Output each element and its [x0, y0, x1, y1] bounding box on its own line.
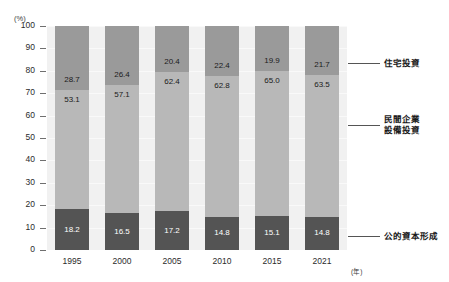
bar-value-label: 15.1	[264, 229, 280, 237]
bar-value-label: 17.2	[164, 227, 180, 235]
y-axis-tick-label: 30	[26, 177, 35, 187]
y-axis-tick-mark	[40, 26, 46, 27]
bar-segment[interactable]: 21.7	[305, 26, 339, 75]
bar-segment[interactable]: 18.2	[55, 209, 89, 250]
y-axis-tick-mark	[40, 138, 46, 139]
gridline	[47, 138, 347, 139]
bar-value-label: 53.1	[64, 96, 80, 104]
bar-value-label: 62.8	[214, 82, 230, 90]
bar-value-label: 26.4	[114, 71, 130, 79]
legend-item[interactable]: 民間企業設備投資	[348, 114, 420, 136]
plot-area	[47, 26, 347, 250]
bar-value-label: 14.8	[314, 229, 330, 237]
bar-segment[interactable]: 15.1	[255, 216, 289, 250]
gridline	[47, 160, 347, 161]
x-axis-tick-label: 2021	[292, 256, 352, 266]
y-axis-tick-mark	[40, 48, 46, 49]
bar-segment[interactable]: 14.8	[205, 217, 239, 250]
legend-leader-line	[348, 236, 380, 237]
bar-group[interactable]: 16.557.126.4	[105, 26, 139, 250]
legend-item[interactable]: 公的資本形成	[348, 231, 438, 242]
bar-segment[interactable]: 65.0	[255, 71, 289, 217]
legend-label: 民間企業設備投資	[384, 114, 420, 136]
gridline	[47, 116, 347, 117]
bar-value-label: 18.2	[64, 226, 80, 234]
y-axis-tick-mark	[40, 160, 46, 161]
x-axis-unit-label: (年)	[351, 266, 362, 276]
bar-group[interactable]: 14.862.822.4	[205, 26, 239, 250]
y-axis-tick-mark	[40, 250, 46, 251]
bar-group[interactable]: 17.262.420.4	[155, 26, 189, 250]
bar-value-label: 20.4	[164, 58, 180, 66]
bar-segment[interactable]: 17.2	[155, 211, 189, 250]
bar-segment[interactable]: 22.4	[205, 26, 239, 76]
legend-item[interactable]: 住宅投資	[348, 58, 420, 69]
gridline	[47, 71, 347, 72]
y-axis-tick-mark	[40, 183, 46, 184]
legend-leader-line	[348, 125, 380, 126]
bar-value-label: 65.0	[264, 77, 280, 85]
stacked-bar-chart: (%) (年) 0102030405060708090100 199520002…	[0, 0, 449, 282]
bar-value-label: 19.9	[264, 57, 280, 65]
y-axis-tick-label: 50	[26, 132, 35, 142]
gridline	[47, 48, 347, 49]
bar-group[interactable]: 18.253.128.7	[55, 26, 89, 250]
bar-segment[interactable]: 16.5	[105, 213, 139, 250]
y-axis-tick-label: 80	[26, 65, 35, 75]
y-axis-tick-label: 70	[26, 87, 35, 97]
y-axis-tick-label: 40	[26, 154, 35, 164]
bar-segment[interactable]: 26.4	[105, 26, 139, 85]
gridline	[47, 93, 347, 94]
bar-segment[interactable]: 57.1	[105, 85, 139, 213]
y-axis-tick-label: 20	[26, 199, 35, 209]
y-axis-tick-label: 0	[30, 244, 35, 254]
legend-label: 住宅投資	[384, 58, 420, 69]
bar-group[interactable]: 14.863.521.7	[305, 26, 339, 250]
bar-segment[interactable]: 28.7	[55, 26, 89, 90]
bar-segment[interactable]: 14.8	[305, 217, 339, 250]
bar-value-label: 14.8	[214, 229, 230, 237]
bar-segment[interactable]: 62.4	[155, 72, 189, 212]
gridline	[47, 228, 347, 229]
y-axis-tick-mark	[40, 205, 46, 206]
bar-segment[interactable]: 20.4	[155, 26, 189, 72]
bar-value-label: 22.4	[214, 62, 230, 70]
bar-value-label: 62.4	[164, 78, 180, 86]
y-axis-tick-label: 90	[26, 42, 35, 52]
bar-segment[interactable]: 63.5	[305, 75, 339, 217]
bar-value-label: 57.1	[114, 91, 130, 99]
legend-label-line2: 設備投資	[384, 125, 420, 136]
legend-label: 公的資本形成	[384, 231, 438, 242]
bar-value-label: 21.7	[314, 61, 330, 69]
y-axis-tick-mark	[40, 116, 46, 117]
bar-group[interactable]: 15.165.019.9	[255, 26, 289, 250]
y-axis-tick-mark	[40, 71, 46, 72]
bar-segment[interactable]: 53.1	[55, 90, 89, 209]
y-axis-tick-label: 10	[26, 222, 35, 232]
bar-value-label: 28.7	[64, 76, 80, 84]
gridline	[47, 183, 347, 184]
legend-leader-line	[348, 63, 380, 64]
bar-segment[interactable]: 19.9	[255, 26, 289, 71]
bar-value-label: 16.5	[114, 228, 130, 236]
bar-value-label: 63.5	[314, 81, 330, 89]
y-axis-tick-mark	[40, 228, 46, 229]
gridline	[47, 205, 347, 206]
gridline	[47, 26, 347, 27]
y-axis-tick-label: 60	[26, 110, 35, 120]
y-axis-tick-label: 100	[21, 20, 35, 30]
y-axis-tick-mark	[40, 93, 46, 94]
bar-segment[interactable]: 62.8	[205, 76, 239, 217]
